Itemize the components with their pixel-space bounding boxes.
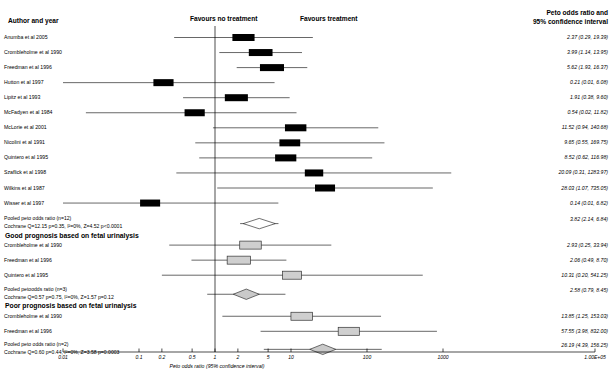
study-estimate: 1.91 (0.38, 9.60) (570, 95, 608, 100)
study-marker-box (285, 124, 306, 131)
pooled-marker-diamond (243, 218, 275, 228)
study-estimate: 10.31 (0.20, 541.25) (561, 273, 608, 278)
study-estimate: 2.06 (0.49, 8.70) (570, 258, 608, 263)
study-estimate: 5.62 (1.93, 16.37) (567, 65, 608, 70)
study-marker-box (338, 327, 359, 335)
header-author-column: Author and year (8, 18, 59, 25)
study-label: McFadyen et al 1984 (4, 110, 52, 115)
pooled-stats-2: Cochrane Q=0.57 p=0.75, I²=0%, Z=1.57 p=… (4, 295, 114, 300)
study-label: Quintero et al 1995 (4, 155, 48, 160)
header-result-line1: Peto odds ratio and (546, 10, 608, 17)
x-axis-title: Peto odds ratio (95% confidence interval… (170, 364, 265, 369)
study-marker-box (153, 79, 173, 86)
study-marker-box (283, 271, 302, 279)
study-estimate: 20.09 (0.31, 1283.97) (558, 170, 608, 175)
study-estimate: 0.21 (0.01, 6.08) (570, 80, 608, 85)
study-marker-box (279, 139, 300, 146)
study-label: Szaflick et al 1998 (4, 170, 46, 175)
header-favours-treatment: Favours treatment (300, 16, 358, 23)
study-estimate: 3.99 (1.14, 13.95) (567, 50, 608, 55)
study-estimate: 0.54 (0.02, 11.82) (567, 110, 608, 115)
study-marker-box (225, 94, 248, 101)
pooled-marker-diamond (233, 289, 259, 299)
pooled-estimate-1: 3.82 (2.14, 6.84) (570, 217, 608, 222)
x-axis-tick-label: 10 (288, 355, 294, 360)
study-marker-box (291, 312, 313, 320)
pooled-label-1: Pooled peto odds ratio (n=12) (4, 216, 71, 221)
study-label: Nicolini et al 1991 (4, 140, 45, 145)
pooled-estimate-3: 26.19 (4.39, 156.25) (561, 343, 608, 348)
study-label: Crombleholme et al 1990 (4, 314, 62, 319)
subgroup-heading-good: Good prognosis based on fetal urinalysis (5, 233, 139, 240)
study-label: Crombleholme et al 1990 (4, 50, 62, 55)
study-estimate: 28.03 (1.07, 735.05) (561, 186, 608, 191)
study-marker-box (240, 241, 262, 249)
study-label: McLorie et al 2001 (4, 125, 47, 130)
study-estimate: 0.14 (0.01, 6.82) (570, 201, 608, 206)
study-marker-box (232, 34, 254, 41)
pooled-label-2: Pooled petoodds ratio (n=3) (4, 287, 67, 292)
study-label: Hutton et al 1997 (4, 80, 44, 85)
study-marker-box (275, 154, 296, 161)
study-marker-box (260, 64, 284, 71)
study-label: Anumba et al 2005 (4, 35, 48, 40)
study-label: Crombleholme et al 1990 (4, 243, 62, 248)
study-marker-box (315, 185, 335, 192)
study-label: Lipitz et al 1993 (4, 95, 40, 100)
study-marker-box (227, 256, 250, 264)
x-axis-tick-label: 0.1 (136, 355, 143, 360)
study-estimate: 2.37 (0.29, 19.39) (567, 35, 608, 40)
pooled-marker-diamond (310, 344, 336, 354)
x-axis-tick-label: 1000 (437, 355, 448, 360)
x-axis-tick-label: 0.5 (189, 355, 196, 360)
pooled-label-3: Pooled peto odds ratio (n=2) (4, 342, 68, 347)
x-axis-tick-label: 5 (267, 355, 270, 360)
study-marker-box (305, 169, 323, 176)
study-estimate: 8.52 (0.62, 116.98) (565, 155, 608, 160)
study-estimate: 13.85 (1.25, 153.03) (561, 314, 608, 319)
study-label: Freedman et al 1996 (4, 65, 52, 70)
x-axis-tick-label: 0.2 (158, 355, 165, 360)
study-label: Wilkins et al 1987 (4, 186, 45, 191)
study-estimate: 9.65 (0.55, 169.75) (564, 140, 608, 145)
x-axis-tick-label: 2 (236, 355, 239, 360)
forest-plot-canvas (0, 0, 613, 377)
study-estimate: 57.55 (3.98, 832.00) (561, 329, 608, 334)
forest-plot: Author and yearFavours no treatmentFavou… (0, 0, 613, 377)
study-marker-box (140, 200, 160, 207)
pooled-estimate-2: 2.58 (0.79, 8.45) (570, 288, 608, 293)
study-label: Freedman et al 1996 (4, 329, 52, 334)
study-label: Wisser et al 1997 (4, 201, 44, 206)
x-axis-tick-label: 100 (363, 355, 371, 360)
subgroup-heading-poor: Poor prognosis based on fetal urinalysis (5, 303, 136, 310)
x-axis-tick-label: 1 (214, 355, 217, 360)
x-axis-tick-label: 1.00E+05 (584, 355, 606, 360)
pooled-stats-1: Cochrane Q=12.15 p=0.35, I²=0%, Z=4.52 p… (4, 224, 122, 229)
x-axis-tick-label: 0.01 (58, 355, 68, 360)
header-favours-no-treatment: Favours no treatment (190, 16, 257, 23)
study-estimate: 2.93 (0.25, 33.94) (567, 243, 608, 248)
study-label: Quintero et al 1995 (4, 273, 48, 278)
study-label: Freedman et al 1996 (4, 258, 52, 263)
study-marker-box (185, 109, 205, 116)
study-marker-box (249, 49, 273, 56)
study-estimate: 11.52 (0.94, 140.68) (562, 125, 608, 130)
header-result-line2: 95% confidence interval (533, 19, 608, 26)
